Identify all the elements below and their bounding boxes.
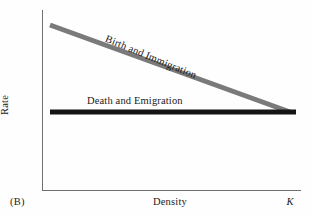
series-label-death-and-emigration: Death and Emigration bbox=[87, 95, 183, 106]
x-axis-tick-label-k: K bbox=[281, 196, 299, 207]
figure-panel: Birth and Immigration Death and Emigrati… bbox=[0, 0, 312, 217]
series-plot-area bbox=[0, 0, 312, 217]
panel-letter-label: (B) bbox=[10, 196, 25, 207]
x-axis-title: Density bbox=[120, 196, 220, 207]
y-axis-title: Rate bbox=[0, 95, 41, 115]
